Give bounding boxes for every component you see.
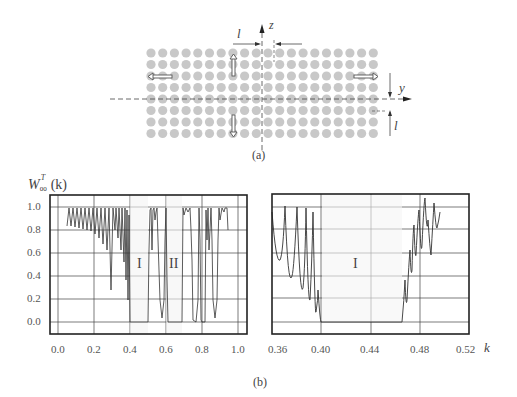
- xtick: 0.2: [87, 343, 101, 355]
- xtick: 0.36: [268, 343, 287, 355]
- ytick: 1.0: [27, 200, 41, 212]
- xtick: 0.0: [51, 343, 65, 355]
- xtick: 1.0: [231, 343, 245, 355]
- region-label-II: II: [169, 256, 178, 272]
- xtick: 0.44: [360, 343, 379, 355]
- xtick: 0.48: [410, 343, 429, 355]
- left-plot: [0, 0, 517, 397]
- xtick: 0.4: [123, 343, 137, 355]
- ytick: 0.4: [27, 269, 41, 281]
- region-label-I-zoom: I: [353, 256, 358, 272]
- xtick: 0.6: [159, 343, 173, 355]
- xtick: 0.8: [195, 343, 209, 355]
- caption-b: (b): [253, 375, 267, 390]
- xtick: 0.52: [456, 343, 475, 355]
- ytick: 0.6: [27, 246, 41, 258]
- ytick: 0.8: [27, 223, 41, 235]
- ytick: 0.0: [27, 315, 41, 327]
- ytick: 0.2: [27, 292, 41, 304]
- xtick: 0.40: [311, 343, 330, 355]
- region-label-I: I: [137, 256, 142, 272]
- x-axis-label: k: [484, 340, 490, 356]
